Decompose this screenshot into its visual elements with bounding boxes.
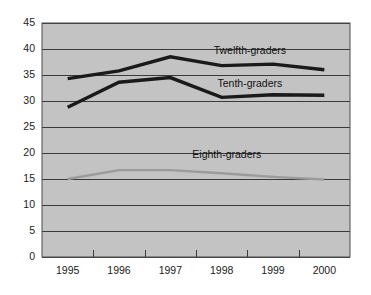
x-axis-tick-labels: 199519961997199819992000: [56, 264, 336, 276]
y-axis-tick-labels: 051015202530354045: [23, 16, 35, 262]
plot-background: [42, 23, 350, 257]
series-annotation-twelfth-graders: Twelfth-graders: [214, 44, 286, 56]
x-tick-label-1997: 1997: [159, 264, 183, 276]
series-annotation-eighth-graders: Eighth-graders: [192, 148, 261, 160]
y-tick-label-30: 30: [23, 94, 35, 106]
series-annotation-tenth-graders: Tenth-graders: [218, 77, 283, 89]
x-tick-label-1999: 1999: [261, 264, 285, 276]
y-tick-label-5: 5: [29, 224, 35, 236]
chart-canvas: 051015202530354045 199519961997199819992…: [0, 0, 371, 295]
x-tick-label-2000: 2000: [313, 264, 337, 276]
y-tick-label-25: 25: [23, 120, 35, 132]
y-tick-label-40: 40: [23, 42, 35, 54]
x-tick-label-1998: 1998: [210, 264, 234, 276]
y-tick-label-0: 0: [29, 250, 35, 262]
y-tick-label-45: 45: [23, 16, 35, 28]
x-tick-label-1995: 1995: [56, 264, 80, 276]
y-tick-label-20: 20: [23, 146, 35, 158]
y-tick-label-15: 15: [23, 172, 35, 184]
line-chart: 051015202530354045 199519961997199819992…: [0, 0, 371, 295]
y-tick-label-35: 35: [23, 68, 35, 80]
x-tick-label-1996: 1996: [107, 264, 131, 276]
y-tick-label-10: 10: [23, 198, 35, 210]
